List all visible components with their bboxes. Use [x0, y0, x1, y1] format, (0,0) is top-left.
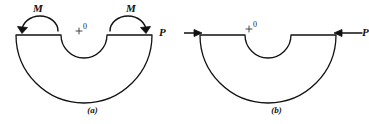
- caption-a: (a): [0, 106, 185, 115]
- force-label-right: P: [362, 27, 369, 38]
- half-annulus-outline: [200, 35, 336, 103]
- moment-arc-left: [22, 16, 58, 31]
- figure-a: M M 0 (a): [0, 0, 185, 124]
- moment-label-right: M: [126, 3, 136, 14]
- moment-arrowhead-left: [18, 27, 28, 34]
- center-point-marker: [246, 26, 252, 32]
- moment-arc-right: [110, 16, 146, 31]
- caption-b: (b): [184, 106, 369, 115]
- moment-label-left: M: [33, 3, 43, 14]
- figure-b: P P 0 (b): [184, 0, 369, 124]
- center-point-marker: [76, 28, 82, 34]
- half-annulus-outline: [16, 35, 152, 103]
- figure-panel-container: M M 0 (a): [0, 0, 369, 124]
- center-label-b: 0: [253, 21, 257, 29]
- center-label-a: 0: [83, 23, 87, 31]
- force-label-left: P: [159, 27, 166, 38]
- moment-arrowhead-right: [141, 27, 151, 34]
